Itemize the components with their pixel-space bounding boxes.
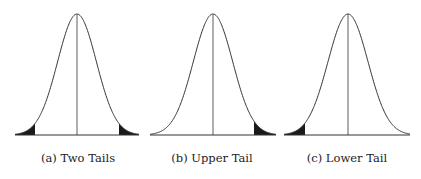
panel-lower-tail-plot: [284, 14, 410, 135]
caption-two-tails: (a) Two Tails: [28, 151, 128, 169]
shaded-tail-region: [119, 123, 139, 135]
panel-upper-tail-plot: [150, 14, 276, 135]
caption-upper-tail: (b) Upper Tail: [162, 151, 262, 169]
shaded-tail-region: [284, 123, 305, 135]
caption-lower-tail: (c) Lower Tail: [297, 151, 397, 169]
panel-two-tails-plot: [15, 14, 139, 135]
shaded-tail-region: [15, 123, 35, 135]
shaded-tail-region: [254, 121, 276, 135]
normal-curve: [284, 14, 410, 134]
